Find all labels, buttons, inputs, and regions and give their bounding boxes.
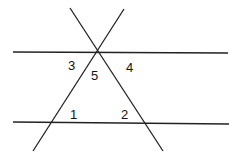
transversal-left-line (33, 9, 124, 151)
top-parallel-line (13, 52, 228, 53)
angle-1-label: 1 (70, 107, 77, 122)
angle-5-label: 5 (91, 68, 98, 83)
angle-3-label: 3 (68, 58, 75, 73)
transversal-right-line (70, 8, 163, 151)
angle-2-label: 2 (121, 107, 128, 122)
angle-4-label: 4 (126, 60, 133, 75)
geometry-diagram: 3 5 4 1 2 (0, 0, 243, 158)
bottom-parallel-line (13, 122, 229, 124)
